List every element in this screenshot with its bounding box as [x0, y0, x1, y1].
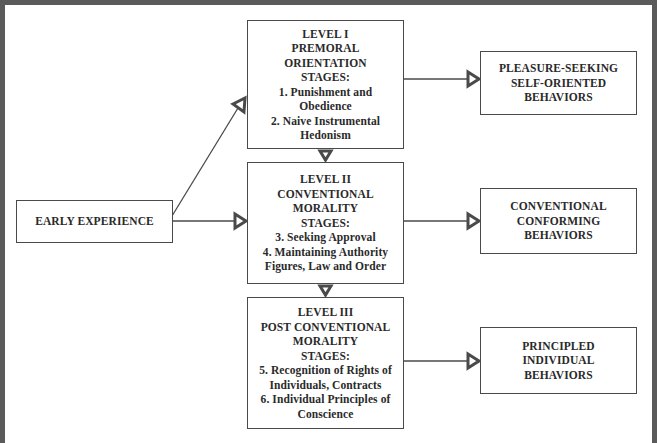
level-1-box: LEVEL I PREMORAL ORIENTATION STAGES: 1. … [247, 20, 404, 149]
arrowhead-to-level2 [235, 214, 246, 228]
outcome-1-line: SELF-ORIENTED [511, 76, 606, 91]
early-experience-label: EARLY EXPERIENCE [35, 214, 154, 229]
outcome-2-line: BEHAVIORS [524, 228, 592, 243]
outcome-3-line: PRINCIPLED [522, 339, 595, 354]
outcome-3-line: BEHAVIORS [524, 368, 592, 383]
level-1-stage-line: Hedonism [300, 128, 351, 143]
level-2-stage-line: 3. Seeking Approval [275, 230, 375, 245]
level-1-heading-line: PREMORAL [292, 41, 360, 56]
level-2-heading-line: CONVENTIONAL [277, 187, 373, 202]
level-1-title: LEVEL I [302, 27, 348, 42]
outcome-1-box: PLEASURE-SEEKING SELF-ORIENTED BEHAVIORS [480, 51, 637, 115]
level-3-box: LEVEL III POST CONVENTIONAL MORALITY STA… [247, 297, 404, 429]
outcome-3-box: PRINCIPLED INDIVIDUAL BEHAVIORS [480, 327, 637, 394]
level-2-heading-line: MORALITY [293, 201, 358, 216]
level-1-stages-label: STAGES: [301, 70, 350, 85]
level-1-stage-line: 1. Punishment and [279, 85, 372, 100]
level-1-stage-line: Obedience [299, 99, 352, 114]
level-3-title: LEVEL III [298, 305, 354, 320]
arrowhead-to-outcome1 [468, 72, 479, 86]
arrowhead-to-level1 [233, 98, 245, 112]
level-2-stages-label: STAGES: [301, 216, 350, 231]
level-1-stage-line: 2. Naive Instrumental [271, 114, 380, 129]
early-experience-box: EARLY EXPERIENCE [16, 200, 173, 243]
level-3-stage-line: 5. Recognition of Rights of [259, 363, 392, 378]
level-2-stage-line: 4. Maintaining Authority [263, 245, 388, 260]
level-1-heading-line: ORIENTATION [284, 56, 366, 71]
outcome-1-line: BEHAVIORS [524, 90, 592, 105]
arrowhead-to-outcome2 [468, 214, 479, 228]
level-3-stage-line: Conscience [298, 407, 354, 422]
outcome-3-line: INDIVIDUAL [523, 353, 595, 368]
level-3-stages-label: STAGES: [301, 349, 350, 364]
arrowhead-level1-to-level2 [320, 151, 331, 160]
level-3-heading-line: MORALITY [293, 334, 358, 349]
level-3-stage-line: Individuals, Contracts [269, 378, 381, 393]
level-2-box: LEVEL II CONVENTIONAL MORALITY STAGES: 3… [247, 162, 404, 284]
outcome-2-line: CONFORMING [517, 214, 600, 229]
outcome-2-box: CONVENTIONAL CONFORMING BEHAVIORS [480, 188, 637, 254]
outcome-1-line: PLEASURE-SEEKING [499, 61, 618, 76]
level-3-heading-line: POST CONVENTIONAL [261, 320, 391, 335]
connector-early-to-level1 [172, 108, 238, 216]
arrowhead-to-outcome3 [468, 354, 479, 368]
outcome-2-line: CONVENTIONAL [510, 199, 606, 214]
level-2-stage-line: Figures, Law and Order [265, 259, 386, 274]
arrowhead-level2-to-level3 [320, 286, 331, 295]
level-2-title: LEVEL II [300, 172, 351, 187]
level-3-stage-line: 6. Individual Principles of [261, 392, 391, 407]
